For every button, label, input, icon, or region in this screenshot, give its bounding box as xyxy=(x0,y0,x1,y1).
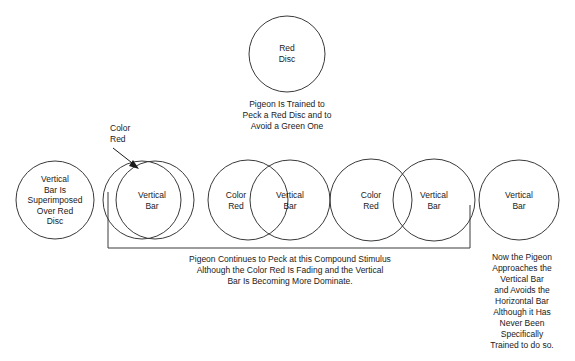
annotation-color-red: Color Red xyxy=(110,123,160,144)
label-stage4-vertical-bar: Vertical Bar xyxy=(404,190,464,211)
caption-compound-stimulus: Pigeon Continues to Peck at this Compoun… xyxy=(140,254,440,287)
label-stage1-superimposed: Vertical Bar Is Superimposed Over Red Di… xyxy=(10,174,100,227)
label-stage2-vertical-bar: Vertical Bar xyxy=(120,190,184,211)
caption-transfer-outcome: Now the Pigeon Approaches the Vertical B… xyxy=(470,252,574,351)
label-stage3-vertical-bar: Vertical Bar xyxy=(260,190,320,211)
diagram-canvas: Red Disc Pigeon Is Trained to Peck a Red… xyxy=(0,0,575,361)
label-stage3-color-red: Color Red xyxy=(215,190,257,211)
label-stage4-color-red: Color Red xyxy=(350,190,392,211)
label-stage5-vertical-bar: Vertical Bar xyxy=(489,190,549,211)
caption-training: Pigeon Is Trained to Peck a Red Disc and… xyxy=(207,99,367,132)
label-red-disc: Red Disc xyxy=(257,43,317,64)
